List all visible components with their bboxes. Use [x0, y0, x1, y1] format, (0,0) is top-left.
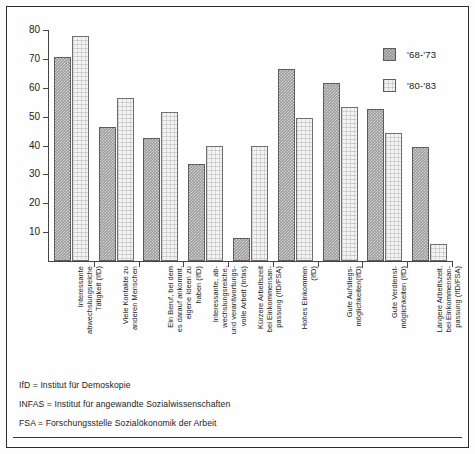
- legend-item-series-1: '68-'73: [383, 48, 463, 61]
- footnotes-divider: [13, 437, 462, 438]
- y-tick-70: [43, 59, 49, 60]
- category-label-1: Interessante abwechslungsreiche Tätigkei…: [76, 266, 104, 374]
- footnote-ifd: IfD = Institut für Demoskopie: [19, 380, 449, 390]
- bar-6-series-1: [278, 69, 295, 261]
- category-label-8: Gute Verdienst- möglichkeiten (IfD): [390, 266, 408, 374]
- bar-9-series-1: [412, 147, 429, 261]
- legend-label-series-2: '80-'83: [407, 80, 436, 91]
- legend: '68-'73 '80-'83: [383, 48, 463, 110]
- bar-5-series-1: [233, 238, 250, 261]
- bar-4-series-1: [188, 164, 205, 261]
- y-tick-40: [43, 146, 49, 147]
- y-tick-label-30: 30: [6, 168, 40, 179]
- y-tick-label-10: 10: [6, 226, 40, 237]
- dark-hatched-swatch: [383, 48, 396, 61]
- x-tick-2: [139, 261, 140, 267]
- y-tick-label-50: 50: [6, 111, 40, 122]
- category-label-4: Interessante, ab- wechslungsreiche, und …: [211, 266, 248, 374]
- x-tick-6: [318, 261, 319, 267]
- x-tick-5: [273, 261, 274, 267]
- bar-6-series-2: [296, 118, 313, 261]
- y-tick-label-40: 40: [6, 140, 40, 151]
- bar-1-series-1: [54, 57, 71, 261]
- footnotes: IfD = Institut für Demoskopie INFAS = In…: [19, 380, 449, 437]
- y-tick-label-80: 80: [6, 24, 40, 35]
- y-tick-30: [43, 174, 49, 175]
- y-tick-10: [43, 232, 49, 233]
- y-tick-label-20: 20: [6, 197, 40, 208]
- chart-page: 1020304050607080 '68-'73 '80-'83 Interes…: [0, 0, 475, 454]
- bar-7-series-2: [341, 107, 358, 261]
- bar-5-series-2: [251, 146, 268, 262]
- x-tick-1: [94, 261, 95, 267]
- x-tick-7: [362, 261, 363, 267]
- x-tick-8: [407, 261, 408, 267]
- category-label-3: Ein Beruf, bei dem es darauf ankommt, ei…: [166, 266, 203, 374]
- bar-9-series-2: [430, 244, 447, 261]
- category-label-7: Gute Aufstiegs- möglichkeiten(IfD): [345, 266, 363, 374]
- bar-4-series-2: [206, 146, 223, 262]
- category-label-9: Längere Arbeitszeit, bei Einkommensan- p…: [435, 266, 463, 374]
- bar-3-series-2: [161, 112, 178, 261]
- y-tick-label-60: 60: [6, 82, 40, 93]
- footnote-infas: INFAS = Institut für angewandte Sozialwi…: [19, 399, 449, 409]
- x-tick-3: [183, 261, 184, 267]
- y-tick-label-70: 70: [6, 53, 40, 64]
- bar-2-series-1: [99, 127, 116, 261]
- category-label-6: Hohes Einkommen (IfD): [300, 266, 318, 374]
- bar-8-series-1: [367, 109, 384, 261]
- legend-item-series-2: '80-'83: [383, 79, 463, 92]
- footnote-fsa: FSA = Forschungsstelle Sozialökonomik de…: [19, 418, 449, 428]
- bar-8-series-2: [385, 133, 402, 261]
- x-axis-category-labels: Interessante abwechslungsreiche Tätigkei…: [49, 266, 452, 376]
- category-label-5: Kürzere Arbeitszeit bei Einkommensan- pa…: [256, 266, 284, 374]
- light-dotted-swatch: [383, 79, 396, 92]
- bar-3-series-1: [143, 138, 160, 261]
- x-tick-end: [452, 261, 453, 267]
- y-tick-50: [43, 117, 49, 118]
- legend-label-series-1: '68-'73: [407, 49, 436, 60]
- bar-1-series-2: [72, 36, 89, 261]
- y-tick-80: [43, 30, 49, 31]
- bar-2-series-2: [117, 98, 134, 261]
- y-tick-60: [43, 88, 49, 89]
- x-tick-4: [228, 261, 229, 267]
- bar-7-series-1: [323, 83, 340, 261]
- y-axis-labels: 1020304050607080: [0, 30, 40, 262]
- y-tick-20: [43, 203, 49, 204]
- x-axis-line: [48, 261, 452, 262]
- category-label-2: Viele Kontakte zu anderen Menschen: [121, 266, 139, 374]
